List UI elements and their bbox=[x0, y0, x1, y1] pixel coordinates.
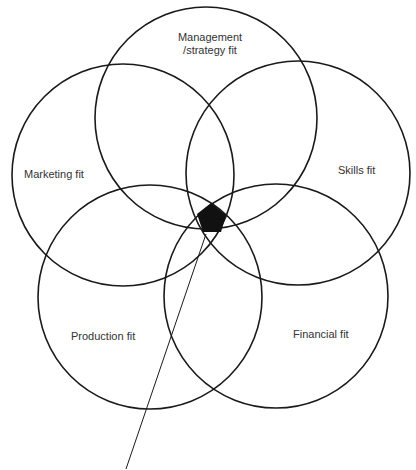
center-intersection bbox=[197, 203, 226, 232]
management-label-line2: /strategy fit bbox=[170, 44, 250, 57]
skills-circle bbox=[186, 61, 410, 285]
production-circle bbox=[38, 185, 262, 409]
financial-circle bbox=[164, 184, 388, 408]
venn-diagram bbox=[0, 0, 416, 470]
marketing-label: Marketing fit bbox=[24, 168, 84, 181]
management-label-line1: Management bbox=[170, 31, 250, 44]
management-label: Management /strategy fit bbox=[170, 31, 250, 57]
financial-label: Financial fit bbox=[293, 328, 349, 341]
skills-label: Skills fit bbox=[338, 164, 375, 177]
leader-line bbox=[126, 234, 206, 469]
production-label: Production fit bbox=[71, 330, 135, 343]
